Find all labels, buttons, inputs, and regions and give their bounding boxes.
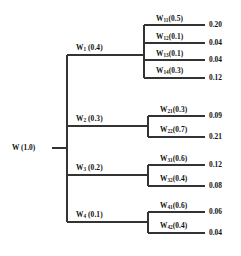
node-w1-subscript: 1	[84, 46, 87, 52]
leaf-w11-weight: (0.5)	[168, 14, 183, 23]
leaf-w14-weight: (0.3)	[169, 66, 184, 75]
value-w13: 0.04	[209, 55, 222, 64]
value-w42: 0.04	[209, 228, 222, 237]
leaf-label-w42: W42(0.4)	[160, 221, 187, 230]
value-w32: 0.08	[209, 181, 222, 190]
leaf-w12-weight: (0.1)	[169, 32, 184, 41]
leaf-label-w41: W41(0.6)	[160, 201, 187, 210]
root-node-label: W (1.0)	[12, 143, 35, 152]
leaf-label-w22: W22(0.7)	[160, 125, 187, 134]
leaf-label-w12: W12(0.1)	[156, 32, 183, 41]
node-w3-weight: (0.2)	[88, 163, 103, 172]
leaf-w42-weight: (0.4)	[173, 221, 188, 230]
leaf-label-w32: W32(0.4)	[160, 174, 187, 183]
leaf-label-w31: W31(0.6)	[160, 154, 187, 163]
node-label-w3: W3 (0.2)	[76, 163, 103, 172]
node-label-w2: W2 (0.3)	[76, 114, 103, 123]
leaf-w41-weight: (0.6)	[173, 201, 188, 210]
leaf-w31-weight: (0.6)	[173, 154, 188, 163]
leaf-w22-name: W	[160, 125, 168, 134]
leaf-w11-name: W	[156, 14, 164, 23]
leaf-w22-weight: (0.7)	[173, 125, 188, 134]
node-label-w4: W4 (0.1)	[76, 210, 103, 219]
node-w2-weight: (0.3)	[88, 114, 103, 123]
weight-hierarchy-diagram: W (1.0) W1 (0.4) W2 (0.3) W3 (0.2) W4 (0…	[0, 0, 241, 256]
leaf-w32-name: W	[160, 174, 168, 183]
node-w4-subscript: 4	[84, 213, 87, 219]
node-w3-subscript: 3	[84, 166, 87, 172]
leaf-label-w11: W11(0.5)	[156, 14, 183, 23]
leaf-w12-name: W	[156, 32, 164, 41]
leaf-label-w13: W13(0.1)	[156, 49, 183, 58]
node-w1-weight: (0.4)	[88, 43, 103, 52]
node-label-w1: W1 (0.4)	[76, 43, 103, 52]
leaf-w14-name: W	[156, 66, 164, 75]
leaf-label-w14: W14(0.3)	[156, 66, 183, 75]
value-w41: 0.06	[209, 207, 222, 216]
node-w1-name: W	[76, 43, 84, 52]
value-w31: 0.12	[209, 160, 222, 169]
leaf-w32-weight: (0.4)	[173, 174, 188, 183]
leaf-w41-name: W	[160, 201, 168, 210]
value-w12: 0.04	[209, 38, 222, 47]
value-w22: 0.21	[209, 132, 222, 141]
leaf-label-w21: W21(0.3)	[160, 105, 187, 114]
value-w11: 0.20	[209, 20, 222, 29]
node-w2-name: W	[76, 114, 84, 123]
value-w21: 0.09	[209, 111, 222, 120]
node-w3-name: W	[76, 163, 84, 172]
node-w2-subscript: 2	[84, 117, 87, 123]
leaf-w13-name: W	[156, 49, 164, 58]
leaf-w21-name: W	[160, 105, 168, 114]
node-w4-name: W	[76, 210, 84, 219]
leaf-w42-name: W	[160, 221, 168, 230]
leaf-w13-weight: (0.1)	[169, 49, 184, 58]
leaf-w21-weight: (0.3)	[173, 105, 188, 114]
value-w14: 0.12	[209, 73, 222, 82]
leaf-w31-name: W	[160, 154, 168, 163]
node-w4-weight: (0.1)	[88, 210, 103, 219]
tree-connector-lines	[0, 0, 241, 256]
